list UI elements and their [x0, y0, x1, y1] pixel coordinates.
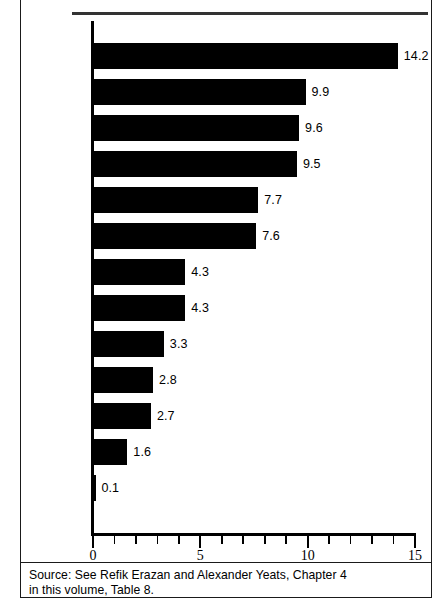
x-axis-minor-tick [393, 536, 395, 544]
bar [93, 43, 398, 69]
bar-value-label: 7.6 [262, 223, 280, 249]
bar [93, 475, 96, 501]
bar [93, 187, 258, 213]
bar [93, 223, 256, 249]
bar [93, 259, 185, 285]
bar-value-label: 9.9 [312, 79, 330, 105]
x-axis-minor-tick [285, 536, 287, 544]
x-axis-major-tick [414, 536, 416, 548]
x-axis-minor-tick [242, 536, 244, 544]
bar-value-label: 4.3 [191, 295, 209, 321]
source-note: Source: See Refik Erazan and Alexander Y… [29, 568, 421, 597]
bar-value-label: 14.2 [404, 43, 429, 69]
x-axis-minor-tick [178, 536, 180, 544]
x-axis-minor-tick [328, 536, 330, 544]
source-divider [21, 562, 431, 563]
source-note-line-1: Source: See Refik Erazan and Alexander Y… [29, 568, 421, 583]
x-axis-major-tick [199, 536, 201, 548]
x-axis-minor-tick [157, 536, 159, 544]
bar [93, 367, 153, 393]
bar-value-label: 7.7 [264, 187, 282, 213]
bar-value-label: 2.8 [159, 367, 177, 393]
bar-value-label: 1.6 [133, 439, 151, 465]
bar-chart-plot-area: Brazil14.2Uruguay9.9Mexico9.6Paraguay9.5… [0, 0, 447, 615]
bar-value-label: 3.3 [170, 331, 188, 357]
bar [93, 151, 297, 177]
bar [93, 79, 306, 105]
x-axis-minor-tick [371, 536, 373, 544]
source-note-line-2: in this volume, Table 8. [29, 583, 421, 598]
x-axis-major-tick [307, 536, 309, 548]
x-axis-minor-tick [264, 536, 266, 544]
bar-value-label: 9.6 [305, 115, 323, 141]
bar-value-label: 0.1 [102, 475, 120, 501]
bar [93, 403, 151, 429]
bar [93, 331, 164, 357]
bar [93, 115, 299, 141]
x-axis-line [91, 533, 416, 536]
x-axis-minor-tick [221, 536, 223, 544]
x-axis-minor-tick [350, 536, 352, 544]
bar-value-label: 2.7 [157, 403, 175, 429]
x-axis-minor-tick [135, 536, 137, 544]
bar [93, 295, 185, 321]
bar-value-label: 4.3 [191, 259, 209, 285]
x-axis-minor-tick [114, 536, 116, 544]
bar [93, 439, 127, 465]
x-axis-major-tick [92, 536, 94, 548]
bar-value-label: 9.5 [303, 151, 321, 177]
